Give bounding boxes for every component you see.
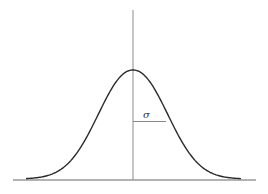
sigma-label: σ [143, 109, 151, 120]
normal-distribution-chart: σ [0, 0, 268, 194]
